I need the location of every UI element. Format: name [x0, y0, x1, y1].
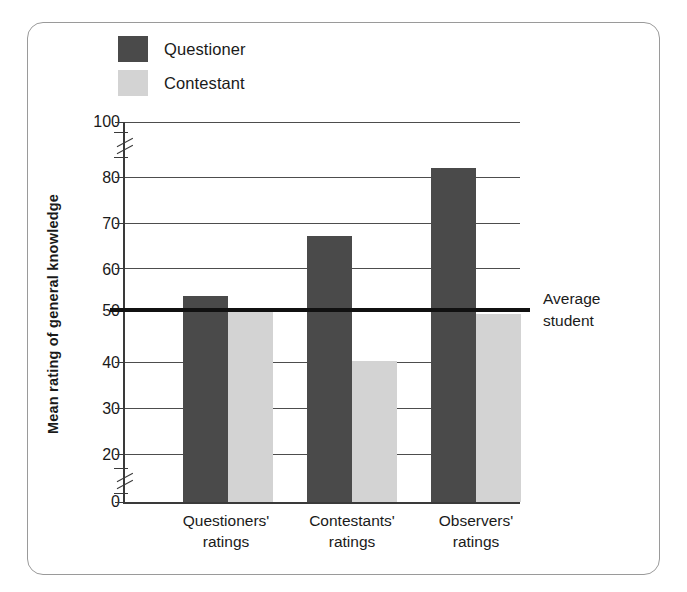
- bar-contestant-observers-ratings: [476, 314, 521, 502]
- x-tick-label-questioners-ratings: Questioners' ratings: [161, 510, 291, 552]
- bar-contestant-contestants-ratings: [352, 361, 397, 502]
- bar-questioner-observers-ratings: [431, 168, 476, 502]
- bar-chart: Questioner Contestant Mean rating of gen…: [0, 0, 687, 592]
- bar-questioner-contestants-ratings: [307, 236, 352, 502]
- bar-questioner-questioners-ratings: [183, 296, 228, 502]
- average-student-reference-line: [110, 308, 530, 312]
- x-tick-label-observers-ratings: Observers' ratings: [411, 510, 541, 552]
- bar-contestant-questioners-ratings: [228, 309, 273, 502]
- annotation-average-student: Average student: [543, 288, 600, 332]
- x-tick-label-contestants-ratings: Contestants' ratings: [287, 510, 417, 552]
